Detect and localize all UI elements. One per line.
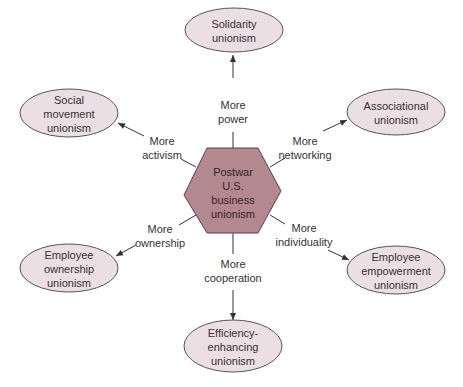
edge-label-individuality: More individuality xyxy=(276,222,333,248)
edge-label-line: power xyxy=(218,113,248,125)
node-social-movement: Social movement unionism xyxy=(20,89,118,137)
edge-label-line: individuality xyxy=(276,236,333,248)
edge-label-line: More xyxy=(147,223,172,235)
edge-label-line: ownership xyxy=(135,237,185,249)
node-label-line: ownership xyxy=(44,263,94,275)
edge-label-activism: More activism xyxy=(142,135,182,161)
node-employee-ownership: Employee ownership unionism xyxy=(20,244,118,292)
edge-label-networking: More networking xyxy=(278,135,331,161)
node-label-line: unionism xyxy=(47,122,91,134)
edge-label-line: More xyxy=(220,99,245,111)
node-label-line: Employee xyxy=(45,249,94,261)
line-center-to-individuality-label xyxy=(270,215,285,224)
arrow-to-associational xyxy=(323,120,347,131)
center-label-line: Postwar xyxy=(213,166,253,178)
node-label-line: unionism xyxy=(211,355,255,367)
unionism-diagram: Postwar U.S. business unionism Solidarit… xyxy=(0,0,463,387)
line-center-to-ownership-label xyxy=(179,215,196,225)
node-label-line: unionism xyxy=(374,279,418,291)
node-label-line: Associational xyxy=(364,100,429,112)
line-center-to-activism-label xyxy=(181,159,196,167)
node-solidarity: Solidarity unionism xyxy=(185,8,283,52)
node-label-line: enhancing xyxy=(208,341,259,353)
associational-ellipse xyxy=(347,89,445,135)
edge-label-line: activism xyxy=(142,149,182,161)
edge-label-line: networking xyxy=(278,149,331,161)
node-label-line: empowerment xyxy=(361,265,431,277)
edge-label-power: More power xyxy=(218,99,248,125)
arrow-to-social-movement xyxy=(118,123,144,136)
node-label-line: movement xyxy=(43,108,94,120)
edge-label-ownership: More ownership xyxy=(135,223,185,249)
node-label-line: Employee xyxy=(372,251,421,263)
center-label-line: U.S. xyxy=(222,180,243,192)
center-node: Postwar U.S. business unionism xyxy=(184,148,281,233)
arrow-to-employee-empowerment xyxy=(328,250,349,260)
node-efficiency-enhancing: Efficiency- enhancing unionism xyxy=(184,320,282,372)
edge-label-line: More xyxy=(149,135,174,147)
node-label-line: Efficiency- xyxy=(208,327,259,339)
edge-label-line: More xyxy=(220,258,245,270)
edge-label-line: More xyxy=(291,222,316,234)
edge-label-cooperation: More cooperation xyxy=(204,258,262,284)
edge-label-line: More xyxy=(292,135,317,147)
solidarity-ellipse xyxy=(185,8,283,52)
arrow-to-employee-ownership xyxy=(116,245,136,256)
node-label-line: unionism xyxy=(374,114,418,126)
center-label-line: business xyxy=(211,194,255,206)
node-label-line: unionism xyxy=(47,277,91,289)
node-label-line: Social xyxy=(54,94,84,106)
node-label-line: unionism xyxy=(212,32,256,44)
node-associational: Associational unionism xyxy=(347,89,445,135)
center-label-line: unionism xyxy=(211,208,255,220)
node-label-line: Solidarity xyxy=(211,18,257,30)
node-employee-empowerment: Employee empowerment unionism xyxy=(347,246,445,294)
edge-label-line: cooperation xyxy=(204,272,262,284)
